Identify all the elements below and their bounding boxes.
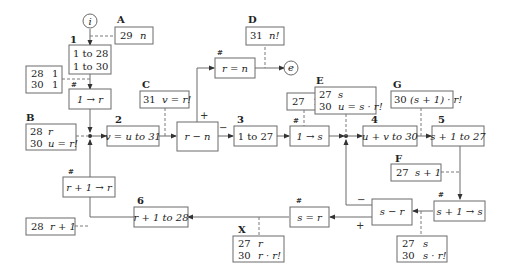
svg-text:30: 30 (238, 250, 251, 261)
svg-text:28: 28 (30, 126, 43, 137)
svg-text:s + 1: s + 1 (415, 167, 441, 178)
svg-text:B: B (26, 112, 34, 123)
svg-text:s + 1 → s: s + 1 → s (436, 206, 482, 217)
start-terminal: i (83, 14, 97, 28)
svg-text:31: 31 (143, 94, 156, 105)
svg-text:6: 6 (137, 195, 144, 206)
svg-text:C: C (142, 79, 150, 90)
svg-text:3: 3 (237, 114, 244, 125)
svg-text:28: 28 (31, 68, 44, 79)
svg-text:30: 30 (30, 138, 43, 149)
svg-text:u = s · r!: u = s · r! (338, 101, 383, 112)
svg-text:n!: n! (269, 30, 279, 41)
svg-text:1 to 27: 1 to 27 (238, 131, 273, 142)
svg-text:F: F (395, 153, 402, 164)
svg-text:s: s (338, 89, 343, 100)
set-s-to-1-box: # 1 → s (290, 117, 329, 146)
svg-text:D: D (248, 14, 257, 25)
svg-text:v = u to 31: v = u to 31 (105, 131, 161, 142)
s-equals-r-box: # s = r (290, 197, 329, 227)
svg-text:2: 2 (115, 114, 122, 125)
svg-text:30: 30 (319, 101, 332, 112)
step-4-box: 4 u + v to 30 (362, 114, 419, 146)
svg-text:1: 1 (52, 68, 58, 79)
svg-text:27: 27 (238, 238, 251, 249)
note-D: D 31 n! (246, 14, 284, 45)
note-F: F 27 s + 1 (391, 153, 441, 181)
svg-text:#: # (71, 81, 77, 89)
svg-text:1 to 28: 1 to 28 (73, 48, 108, 59)
svg-text:#: # (296, 197, 302, 205)
svg-text:1 → s: 1 → s (296, 131, 322, 142)
svg-text:1: 1 (70, 34, 77, 45)
compare-s-r-box: s − r − + (356, 194, 412, 231)
flowchart: i e 1 1 to 28 1 to 30 # 1 → r 2 v = u to… (0, 0, 508, 275)
svg-text:s = r: s = r (297, 212, 323, 223)
svg-text:4: 4 (371, 114, 378, 125)
end-terminal: e (284, 61, 298, 75)
svg-text:30: 30 (31, 79, 44, 90)
svg-text:E: E (316, 75, 324, 86)
svg-text:i: i (88, 16, 91, 27)
step-2-box: 2 v = u to 31 (105, 114, 161, 146)
step-3-box: 3 1 to 27 (234, 114, 277, 146)
svg-text:s − r: s − r (380, 206, 406, 217)
svg-text:1 → r: 1 → r (77, 94, 104, 105)
note-E: E 27 s 30 u = s · r! (315, 75, 383, 114)
svg-text:27: 27 (292, 96, 305, 107)
svg-text:s: s (423, 238, 428, 249)
svg-text:r + 1 → r: r + 1 → r (66, 182, 113, 193)
svg-text:30: 30 (402, 250, 415, 261)
svg-text:e: e (288, 62, 294, 73)
note-B: B 28 r 30 u = r! (26, 112, 78, 150)
note-C: C 31 v = r! (140, 79, 191, 108)
svg-text:u = r!: u = r! (48, 138, 78, 149)
svg-text:s · r!: s · r! (423, 250, 446, 261)
step-5-box: 5 s + 1 to 27 (430, 114, 486, 146)
svg-text:X: X (238, 224, 246, 235)
svg-text:r + 1: r + 1 (50, 221, 76, 232)
svg-text:A: A (116, 14, 125, 25)
svg-text:1 to 30: 1 to 30 (73, 61, 108, 72)
svg-text:29: 29 (120, 30, 133, 41)
step-6-box: 6 r + 1 to 28 (134, 195, 189, 227)
svg-text:+: + (200, 110, 208, 121)
svg-text:r = n: r = n (222, 63, 248, 74)
svg-text:27: 27 (396, 167, 409, 178)
note-H: 27 s 30 s · r! (397, 236, 447, 262)
svg-text:r + 1 to 28: r + 1 to 28 (134, 212, 189, 223)
svg-text:−: − (219, 122, 227, 133)
note-init: 28 1 30 1 (26, 66, 62, 93)
svg-text:5: 5 (438, 114, 445, 125)
svg-text:G: G (393, 79, 402, 90)
svg-text:30: 30 (394, 94, 407, 105)
increment-r-box: # r + 1 → r (63, 168, 115, 197)
svg-text:v = r!: v = r! (162, 94, 191, 105)
svg-text:#: # (217, 49, 223, 57)
svg-text:27: 27 (402, 238, 415, 249)
svg-text:#: # (438, 191, 444, 199)
svg-text:n: n (140, 30, 146, 41)
note-G: G 30 (s + 1) · r! (391, 79, 462, 108)
svg-text:1: 1 (52, 79, 58, 90)
svg-text:−: − (357, 194, 365, 205)
svg-text:+: + (356, 220, 364, 231)
svg-text:28: 28 (31, 221, 44, 232)
svg-text:r − n: r − n (185, 131, 211, 142)
svg-text:#: # (68, 168, 74, 176)
svg-text:27: 27 (319, 89, 332, 100)
compare-r-n-box: r − n + − (177, 110, 227, 151)
note-R: 28 r + 1 (26, 218, 76, 235)
svg-text:31: 31 (250, 30, 263, 41)
svg-text:s + 1 to 27: s + 1 to 27 (430, 131, 486, 142)
svg-text:#: # (293, 117, 299, 125)
svg-text:(s + 1) · r!: (s + 1) · r! (410, 94, 462, 105)
r-equals-n-box: # r = n (215, 49, 255, 78)
svg-text:r · r!: r · r! (258, 250, 281, 261)
svg-text:u + v to 30: u + v to 30 (362, 131, 419, 142)
note-A: A 29 n (115, 14, 153, 44)
